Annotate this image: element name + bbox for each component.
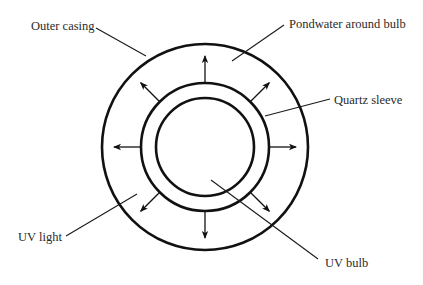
uv-ray-arrow-icon (141, 193, 159, 211)
pondwater-label: Pondwater around bulb (289, 17, 406, 31)
quartz-sleeve-label: Quartz sleeve (334, 93, 403, 107)
outer-casing-label: Outer casing (31, 19, 95, 33)
pondwater-leader (232, 25, 284, 61)
uv-ray-arrow-icon (251, 193, 269, 211)
uv-clarifier-diagram: Outer casing Pondwater around bulb Quart… (0, 0, 423, 285)
uv-bulb-label: UV bulb (325, 256, 368, 270)
quartz-sleeve-ring (141, 83, 269, 211)
uv-light-label: UV light (18, 230, 62, 244)
outer-casing-leader (96, 28, 146, 56)
uv-ray-arrow-icon (141, 83, 159, 101)
uv-bulb-ring (156, 98, 254, 196)
uv-ray-arrow-icon (251, 83, 269, 101)
